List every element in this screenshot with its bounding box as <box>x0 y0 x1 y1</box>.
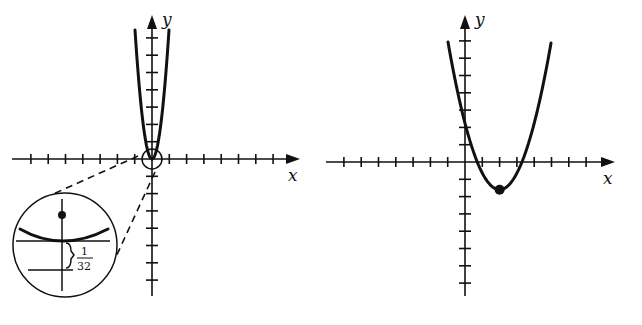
left-graph: xy132 <box>12 9 300 297</box>
inset-magnifier: 132 <box>13 193 117 297</box>
figure-canvas: xy132 xy <box>0 0 642 325</box>
y-axis-arrow-icon <box>147 15 157 29</box>
x-axis-arrow-icon <box>601 157 615 167</box>
brace-icon <box>66 243 74 268</box>
y-axis-label: y <box>161 9 172 29</box>
fraction-numerator: 1 <box>81 245 88 258</box>
x-axis-arrow-icon <box>286 154 300 164</box>
fraction-denominator: 32 <box>77 260 91 273</box>
y-axis-arrow-icon <box>460 15 470 29</box>
leader-line-top <box>51 156 138 195</box>
right-graph: xy <box>326 9 615 296</box>
x-axis-label: x <box>603 168 613 188</box>
inset-parabola <box>20 229 108 241</box>
x-axis-label: x <box>288 165 298 185</box>
vertex-point-icon <box>495 185 505 195</box>
parabola <box>448 42 551 190</box>
inset-circle <box>13 193 117 297</box>
focus-point-icon <box>58 211 66 219</box>
y-axis-label: y <box>474 9 485 29</box>
